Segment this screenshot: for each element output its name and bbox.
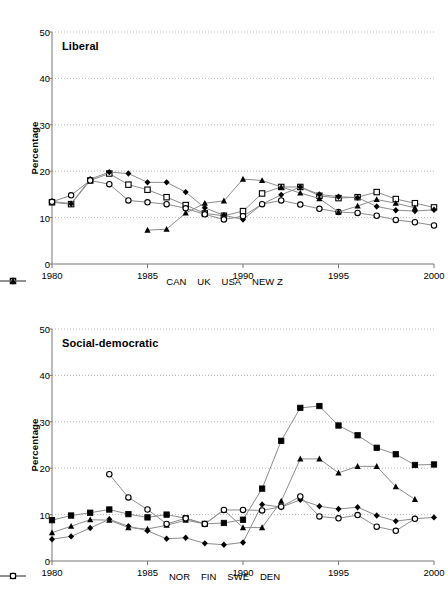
legend-label: DEN <box>259 571 280 582</box>
plot-title-liberal: Liberal <box>62 40 99 52</box>
data-point-marker <box>412 516 417 521</box>
data-point-marker <box>355 504 361 510</box>
data-point-marker <box>68 193 73 198</box>
data-point-marker <box>107 472 112 477</box>
legend-liberal: CANUKUSANEW Z <box>0 276 448 287</box>
plot-area-socdem <box>0 315 448 590</box>
data-point-marker <box>259 501 265 507</box>
data-point-marker <box>164 512 169 517</box>
data-point-marker <box>317 206 322 211</box>
data-point-marker <box>431 223 436 228</box>
data-point-marker <box>259 191 264 196</box>
data-point-marker <box>355 512 360 517</box>
legend-item-can[interactable]: CAN <box>165 276 186 287</box>
data-point-marker <box>202 521 207 526</box>
data-point-marker <box>183 516 188 521</box>
data-point-marker <box>278 192 284 198</box>
data-point-marker <box>49 199 54 204</box>
legend-marker-open-circle <box>0 571 26 581</box>
chart-panel-liberal: Percentage 01020304050 Liberal 198019851… <box>0 18 448 303</box>
data-point-marker <box>49 536 55 542</box>
data-point-marker <box>183 535 189 541</box>
data-point-marker <box>259 486 264 491</box>
legend-label: CAN <box>165 276 186 287</box>
data-point-marker <box>393 217 398 222</box>
legend-item-nor[interactable]: NOR <box>168 571 190 582</box>
data-point-marker <box>164 179 170 185</box>
data-point-marker <box>164 194 169 199</box>
data-point-marker <box>202 540 208 546</box>
legend-item-swe[interactable]: SWE <box>226 571 249 582</box>
data-point-marker <box>88 510 93 515</box>
data-point-marker <box>374 213 379 218</box>
data-point-marker <box>336 516 341 521</box>
data-point-marker <box>431 462 436 467</box>
legend-item-uk[interactable]: UK <box>196 276 210 287</box>
data-point-marker <box>259 508 264 513</box>
data-point-marker <box>355 433 360 438</box>
data-point-marker <box>10 573 15 578</box>
data-point-marker <box>145 507 150 512</box>
data-point-marker <box>393 518 399 524</box>
data-point-marker <box>374 512 380 518</box>
data-point-marker <box>221 542 227 548</box>
legend-item-new-z[interactable]: NEW Z <box>251 276 283 287</box>
legend-marker-filled-triangle <box>0 276 26 286</box>
data-point-marker <box>68 533 74 539</box>
legend-label: USA <box>221 276 242 287</box>
data-point-marker <box>259 201 264 206</box>
legend-socdem: NORFINSWEDEN <box>0 571 448 582</box>
data-point-marker <box>336 423 341 428</box>
data-point-marker <box>145 179 151 185</box>
data-point-marker <box>126 182 131 187</box>
data-point-marker <box>240 539 246 545</box>
data-point-marker <box>145 187 150 192</box>
data-point-marker <box>240 517 245 522</box>
chart-panel-socdem: Percentage 01020304050 Social-democratic… <box>0 315 448 590</box>
data-point-marker <box>374 196 380 202</box>
data-point-marker <box>298 202 303 207</box>
chart-socdem: Percentage 01020304050 Social-democratic… <box>0 315 448 590</box>
data-point-marker <box>374 445 379 450</box>
data-point-marker <box>355 210 360 215</box>
data-point-marker <box>126 495 131 500</box>
data-point-marker <box>316 503 322 509</box>
data-point-marker <box>164 521 169 526</box>
data-point-marker <box>431 514 437 520</box>
data-point-marker <box>393 528 398 533</box>
data-point-marker <box>317 403 322 408</box>
data-point-marker <box>374 189 379 194</box>
legend-item-fin[interactable]: FIN <box>200 571 216 582</box>
data-point-marker <box>279 198 284 203</box>
legend-label: NEW Z <box>251 276 283 287</box>
data-point-marker <box>279 504 284 509</box>
data-point-marker <box>412 462 417 467</box>
data-point-marker <box>145 200 150 205</box>
data-point-marker <box>202 212 207 217</box>
data-point-marker <box>240 507 245 512</box>
data-point-marker <box>279 438 284 443</box>
data-point-marker <box>88 178 93 183</box>
data-point-marker <box>221 507 226 512</box>
data-point-marker <box>107 507 112 512</box>
chart-liberal: Percentage 01020304050 Liberal 198019851… <box>0 18 448 303</box>
legend-label: FIN <box>200 571 216 582</box>
data-point-marker <box>164 201 169 206</box>
data-point-marker <box>317 514 322 519</box>
legend-item-usa[interactable]: USA <box>221 276 242 287</box>
data-point-marker <box>336 506 342 512</box>
data-point-marker <box>374 524 379 529</box>
data-point-marker <box>221 520 226 525</box>
data-point-marker <box>126 511 131 516</box>
data-point-marker <box>240 214 245 219</box>
data-point-marker <box>393 207 399 213</box>
legend-label: UK <box>196 276 210 287</box>
legend-item-den[interactable]: DEN <box>259 571 280 582</box>
data-point-marker <box>298 405 303 410</box>
plot-title-socdem: Social-democratic <box>62 337 158 349</box>
data-point-marker <box>145 515 150 520</box>
data-point-marker <box>412 496 418 502</box>
data-point-marker <box>298 494 303 499</box>
data-point-marker <box>107 181 112 186</box>
data-point-marker <box>164 536 170 542</box>
